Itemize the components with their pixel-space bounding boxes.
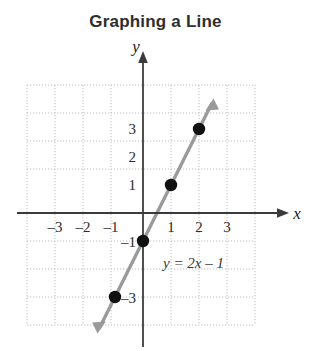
graph-figure: Graphing a Line xyxy=(0,0,311,351)
line-arrow-up xyxy=(206,99,220,111)
y-axis-label: y xyxy=(130,40,140,56)
x-axis-arrow xyxy=(277,208,289,218)
data-point xyxy=(109,291,121,303)
y-tick-label: –1 xyxy=(120,234,136,250)
equation-annotation: y = 2x – 1 xyxy=(161,255,224,271)
graph-svg: x y –3 –2 –1 1 2 3 3 2 1 –1 –3 y = 2x – … xyxy=(0,40,311,351)
x-tick-label: 3 xyxy=(223,219,231,235)
data-point xyxy=(193,123,205,135)
y-tick-label: 2 xyxy=(129,149,137,165)
x-tick-label: –1 xyxy=(103,219,119,235)
y-tick-label: 1 xyxy=(129,177,137,193)
page-title: Graphing a Line xyxy=(0,12,311,32)
grid-lines xyxy=(27,85,255,325)
x-tick-label: 1 xyxy=(167,219,175,235)
line-arrow-down xyxy=(92,322,106,334)
coordinate-plane: x y –3 –2 –1 1 2 3 3 2 1 –1 –3 y = 2x – … xyxy=(0,40,311,351)
axes xyxy=(17,60,281,347)
x-tick-label: 2 xyxy=(195,219,203,235)
y-tick-label: 3 xyxy=(129,121,137,137)
data-point xyxy=(165,179,177,191)
x-axis-label: x xyxy=(292,204,301,223)
data-point xyxy=(137,235,149,247)
x-tick-label: –2 xyxy=(75,219,91,235)
x-tick-label: –3 xyxy=(47,219,63,235)
y-tick-label: –3 xyxy=(120,290,136,306)
